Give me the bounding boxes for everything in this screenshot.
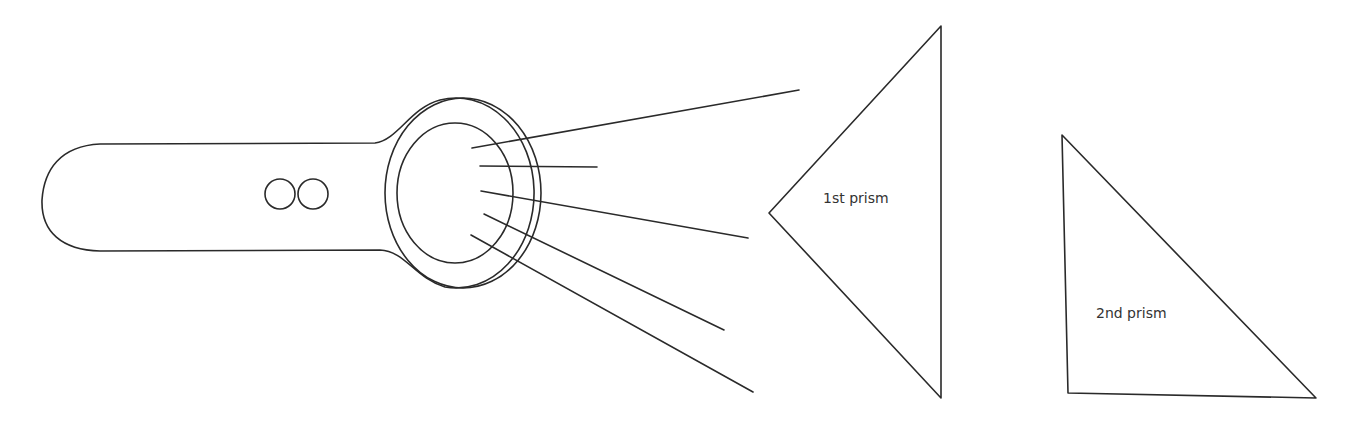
prism-2: 2nd prism: [1062, 135, 1316, 398]
flashlight: [42, 98, 541, 288]
light-ray-1: [472, 90, 799, 148]
light-ray-3: [481, 191, 748, 238]
light-ray-4: [484, 214, 724, 330]
prism-1-shape: [769, 26, 941, 398]
prism-2-label: 2nd prism: [1096, 305, 1167, 321]
flashlight-head-ring: [385, 98, 541, 288]
flashlight-body-outline: [42, 98, 534, 288]
prism-1-label: 1st prism: [823, 190, 889, 206]
flashlight-button-2: [298, 179, 328, 209]
light-ray-5: [471, 235, 753, 392]
flashlight-button-1: [265, 179, 295, 209]
flashlight-prism-diagram: 1st prism 2nd prism: [0, 0, 1349, 428]
light-rays: [471, 90, 799, 392]
light-ray-2: [480, 166, 597, 167]
prism-2-shape: [1062, 135, 1316, 398]
prism-1: 1st prism: [769, 26, 941, 398]
